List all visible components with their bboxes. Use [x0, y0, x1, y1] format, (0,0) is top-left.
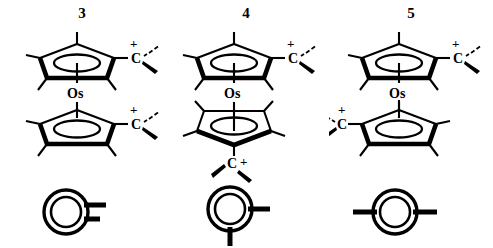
bottom-cp-ring: [348, 100, 450, 156]
top-wedge-bond: [142, 61, 158, 74]
bottom-carbocation: C +: [130, 102, 158, 140]
structure-4-group: 4 C +: [164, 0, 328, 248]
bottom-wedge-bond: [142, 127, 158, 140]
bottom-carbocation: C +: [211, 154, 252, 183]
structure-5-drawing: C + Os: [329, 0, 493, 248]
top-wedge-bond: [464, 61, 480, 74]
bottom-cp-ring: [183, 101, 285, 156]
bottom-carbocation-atom: C: [227, 156, 237, 171]
top-carbocation: C +: [452, 36, 480, 74]
schematic-3: [44, 190, 106, 234]
top-carbocation: C +: [287, 36, 315, 74]
bottom-carbocation-atom: C: [337, 117, 347, 132]
bottom-wedge-bond-right: [237, 170, 252, 183]
schematic-5: [353, 190, 437, 234]
bottom-carbocation-charge: +: [338, 102, 345, 117]
osmium-label: Os: [224, 86, 241, 101]
top-carbocation-atom: C: [288, 51, 298, 66]
top-carbocation-charge: +: [130, 36, 137, 51]
top-hash-bond: [466, 47, 480, 57]
schematic-4-inner-ring: [215, 194, 245, 224]
top-cp-ring: [348, 32, 450, 90]
chemical-structure-figure: 3: [0, 0, 493, 248]
bottom-carbocation-charge: +: [240, 154, 247, 169]
bottom-wedge-bond: [329, 127, 337, 140]
structure-4-drawing: C + Os: [164, 0, 328, 248]
top-wedge-bond: [299, 61, 315, 74]
structure-3-group: 3: [0, 0, 164, 248]
top-cp-ring: [26, 32, 128, 90]
bottom-hash-bond: [329, 117, 335, 123]
schematic-3-inner-ring: [51, 197, 81, 227]
top-hash-bond: [144, 47, 158, 57]
structure-5-group: 5 C +: [329, 0, 493, 248]
schematic-4: [208, 187, 270, 246]
top-cp-ring: [183, 32, 285, 90]
top-carbocation-charge: +: [287, 36, 294, 51]
bottom-wedge-bond-left: [211, 164, 226, 178]
osmium-label: Os: [67, 86, 84, 101]
structure-3-drawing: C + Os: [0, 0, 164, 248]
schematic-5-inner-ring: [380, 197, 410, 227]
top-carbocation: C +: [130, 36, 158, 74]
bottom-hash-bond: [144, 113, 158, 123]
top-carbocation-atom: C: [131, 51, 141, 66]
bottom-cp-ring: [26, 102, 128, 156]
top-hash-bond: [301, 47, 315, 57]
bottom-carbocation-charge: +: [130, 102, 137, 117]
top-carbocation-atom: C: [453, 51, 463, 66]
bottom-carbocation: C +: [329, 102, 347, 140]
osmium-label: Os: [389, 86, 406, 101]
top-carbocation-charge: +: [452, 36, 459, 51]
bottom-carbocation-atom: C: [131, 117, 141, 132]
